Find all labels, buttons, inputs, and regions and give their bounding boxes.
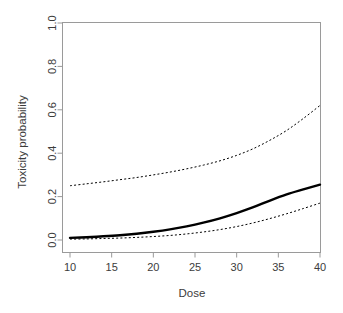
plot-canvas: 0.00.20.40.60.81.0 10152025303540 Dose T… [0,0,343,313]
x-tick-label: 15 [106,261,118,273]
y-tick-label: 1.0 [46,15,58,30]
x-tick-label: 10 [64,261,76,273]
x-tick-label: 20 [147,261,159,273]
y-tick-label: 0.0 [46,232,58,247]
x-axis-title: Dose [179,287,206,299]
y-tick-label: 0.4 [46,146,58,161]
y-tick-label: 0.6 [46,102,58,117]
x-tick-label: 40 [314,261,326,273]
y-tick-label: 0.2 [46,189,58,204]
x-tick-label: 30 [231,261,243,273]
x-tick-label: 35 [272,261,284,273]
x-tick-label: 25 [189,261,201,273]
y-axis-title: Toxicity probability [16,95,28,189]
y-tick-label: 0.8 [46,59,58,74]
toxicity-probability-plot: 0.00.20.40.60.81.0 10152025303540 Dose T… [0,0,343,313]
